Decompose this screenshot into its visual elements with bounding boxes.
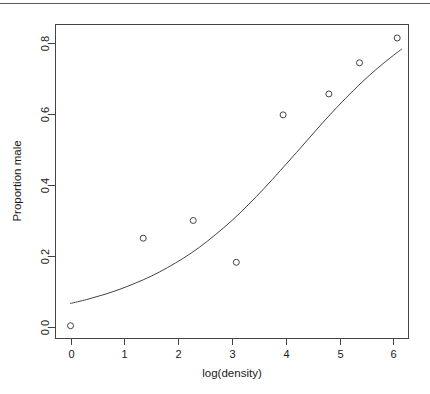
x-tick-label: 3: [229, 348, 235, 360]
x-tick-label: 6: [390, 348, 396, 360]
x-tick-label: 5: [337, 348, 343, 360]
y-axis-tick-labels: 0.00.20.40.60.8: [39, 36, 51, 335]
y-tick-label: 0.0: [39, 320, 51, 335]
x-axis-title: log(density): [202, 367, 262, 379]
scatter-plot: 0.00.20.40.60.8 0123456 Proportion male …: [0, 0, 430, 394]
data-point-marker: [280, 112, 286, 118]
plot-frame: [56, 25, 409, 339]
y-tick-label: 0.6: [39, 107, 51, 122]
data-point-marker: [326, 91, 332, 97]
figure-container: 0.00.20.40.60.8 0123456 Proportion male …: [0, 0, 430, 394]
data-point-marker: [68, 323, 74, 329]
y-tick-label: 0.2: [39, 249, 51, 264]
data-point-marker: [233, 259, 239, 265]
x-tick-label: 0: [68, 348, 74, 360]
data-point-marker: [140, 235, 146, 241]
data-points: [68, 35, 401, 329]
x-axis-ticks: [72, 339, 394, 346]
x-tick-label: 4: [283, 348, 289, 360]
y-axis-title: Proportion male: [11, 140, 23, 221]
y-tick-label: 0.8: [39, 36, 51, 51]
x-tick-label: 1: [121, 348, 127, 360]
plot-box: [56, 25, 409, 339]
data-point-marker: [357, 60, 363, 66]
x-axis-tick-labels: 0123456: [68, 348, 396, 360]
top-divider-rule: [0, 3, 430, 4]
data-point-marker: [394, 35, 400, 41]
data-point-marker: [190, 217, 196, 223]
y-tick-label: 0.4: [39, 178, 51, 193]
x-tick-label: 2: [175, 348, 181, 360]
